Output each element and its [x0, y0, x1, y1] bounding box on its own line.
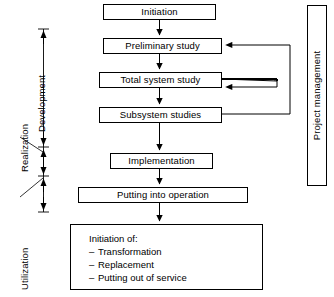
process-box-preliminary-study[interactable]: Preliminary study: [103, 38, 222, 54]
side-box-label: Project management: [312, 51, 323, 140]
list-bullet: –: [89, 258, 98, 271]
terminal-list-item-label: Transformation: [98, 246, 162, 257]
process-box-label: Initiation: [141, 7, 177, 17]
process-box-label: Implementation: [128, 156, 194, 166]
terminal-list-item-label: Putting out of service: [98, 272, 187, 283]
process-box-label: Putting into operation: [117, 190, 209, 200]
phase-label-realization: Realization: [19, 124, 30, 172]
utilization-leader-line: [20, 178, 43, 197]
list-bullet: –: [89, 245, 98, 258]
terminal-box-heading: Initiation of:: [89, 232, 262, 245]
terminal-list-item: –Putting out of service: [89, 271, 262, 284]
side-box-project-management[interactable]: Project management: [307, 5, 327, 186]
process-box-implementation[interactable]: Implementation: [110, 153, 213, 169]
terminal-box-initiation-of[interactable]: Initiation of: –Transformation –Replacem…: [70, 224, 263, 290]
terminal-list-item: –Replacement: [89, 258, 262, 271]
process-box-label: Subsystem studies: [120, 110, 201, 120]
process-box-initiation[interactable]: Initiation: [103, 4, 216, 20]
process-box-total-system-study[interactable]: Total system study: [99, 72, 222, 88]
phase-label-development: Development: [36, 75, 47, 132]
list-bullet: –: [89, 271, 98, 284]
process-box-subsystem-studies[interactable]: Subsystem studies: [99, 107, 222, 123]
process-box-label: Preliminary study: [125, 41, 200, 51]
terminal-list-item-label: Replacement: [98, 259, 154, 270]
process-box-label: Total system study: [121, 75, 201, 85]
diagram-canvas: Initiation Preliminary study Total syste…: [0, 0, 334, 297]
terminal-list-item: –Transformation: [89, 245, 262, 258]
phase-label-utilization: Utilization: [19, 248, 30, 290]
process-box-putting-into-operation[interactable]: Putting into operation: [78, 187, 248, 203]
